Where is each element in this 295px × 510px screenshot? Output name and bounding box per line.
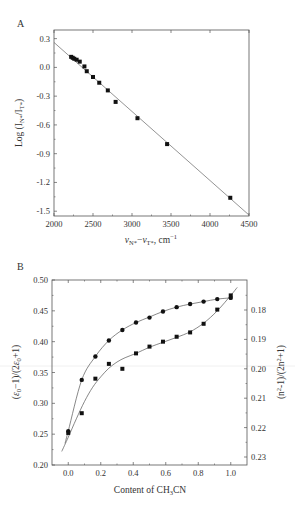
panel-a-frame bbox=[54, 30, 249, 216]
data-point-circle bbox=[147, 315, 151, 319]
x-tick-label: 0.8 bbox=[193, 468, 204, 478]
panel-a: A 2000250030003500400045000.30.0-0.3-0.6… bbox=[14, 18, 258, 246]
data-point-square bbox=[188, 330, 192, 334]
y-tick-label-left: 0.25 bbox=[33, 429, 48, 439]
data-point-circle bbox=[107, 338, 111, 342]
figure: A 2000250030003500400045000.30.0-0.3-0.6… bbox=[0, 0, 295, 510]
panel-b-fit-curves bbox=[62, 287, 238, 451]
panel-b: B 0.00.20.40.60.81.00.200.250.300.350.40… bbox=[0, 261, 295, 496]
panel-a-ticks: 2000250030003500400045000.30.0-0.3-0.6-0… bbox=[37, 30, 258, 229]
data-point-circle bbox=[134, 320, 138, 324]
data-point-circle bbox=[120, 328, 124, 332]
data-point bbox=[85, 69, 89, 73]
data-point bbox=[78, 60, 82, 64]
panel-b-xlabel: Content of CH3CN bbox=[114, 485, 187, 496]
data-point bbox=[228, 196, 232, 200]
x-tick-label: 0.0 bbox=[63, 468, 74, 478]
y-tick-label-left: 0.40 bbox=[33, 337, 48, 347]
panel-a-xlabel: νN*−νT*, cm−1 bbox=[125, 233, 177, 246]
panel-b-ticks: 0.00.20.40.60.81.00.200.250.300.350.400.… bbox=[33, 275, 266, 478]
data-point-circle bbox=[201, 299, 205, 303]
panel-a-points bbox=[69, 55, 232, 200]
data-point-square bbox=[120, 367, 124, 371]
y-tick-label: -0.3 bbox=[37, 91, 50, 101]
x-tick-label: 3500 bbox=[163, 219, 180, 229]
y-tick-label-right: 0.22 bbox=[251, 423, 266, 433]
y-tick-label-right: 0.21 bbox=[251, 393, 266, 403]
y-tick-label: -0.9 bbox=[37, 149, 50, 159]
panel-a-label: A bbox=[17, 18, 25, 29]
x-tick-label: 2500 bbox=[85, 219, 102, 229]
y-tick-label: 0.0 bbox=[39, 62, 50, 72]
x-tick-label: 4000 bbox=[202, 219, 219, 229]
y-tick-label-right: 0.20 bbox=[251, 364, 266, 374]
data-point bbox=[135, 116, 139, 120]
y-tick-label-right: 0.18 bbox=[251, 305, 266, 315]
y-tick-label: -0.6 bbox=[37, 120, 50, 130]
data-point bbox=[114, 100, 118, 104]
data-point bbox=[82, 64, 86, 68]
y-tick-label-left: 0.50 bbox=[33, 275, 48, 285]
y-tick-label-left: 0.20 bbox=[33, 460, 48, 470]
panel-b-points bbox=[66, 293, 233, 435]
fit-curve bbox=[65, 298, 231, 444]
data-point-square bbox=[215, 308, 219, 312]
data-point-circle bbox=[188, 302, 192, 306]
data-point bbox=[106, 88, 110, 92]
data-point bbox=[91, 75, 95, 79]
data-point-circle bbox=[215, 297, 219, 301]
y-tick-label-left: 0.35 bbox=[33, 368, 48, 378]
data-point-square bbox=[80, 411, 84, 415]
data-point bbox=[165, 142, 169, 146]
data-point-square bbox=[229, 293, 233, 297]
y-tick-label-right: 0.23 bbox=[251, 452, 266, 462]
data-point-square bbox=[107, 362, 111, 366]
panel-b-label: B bbox=[17, 261, 24, 272]
x-tick-label: 2000 bbox=[46, 219, 63, 229]
x-tick-label: 1.0 bbox=[225, 468, 236, 478]
y-tick-label-left: 0.30 bbox=[33, 398, 48, 408]
y-tick-label-right: 0.19 bbox=[251, 334, 266, 344]
x-tick-label: 0.4 bbox=[128, 468, 139, 478]
data-point-square bbox=[93, 377, 97, 381]
data-point-square bbox=[161, 340, 165, 344]
panel-a-ylabel: Log (IN*/IT*) bbox=[14, 99, 25, 147]
fit-curve bbox=[62, 287, 238, 451]
data-point-square bbox=[148, 345, 152, 349]
data-point-circle bbox=[93, 354, 97, 358]
y-tick-label: -1.2 bbox=[37, 177, 50, 187]
x-tick-label: 0.6 bbox=[160, 468, 171, 478]
data-point-square bbox=[175, 335, 179, 339]
panel-b-ylabel-right: (n2-1)/(2n2+1) bbox=[275, 345, 287, 399]
y-tick-label: -1.5 bbox=[37, 206, 50, 216]
data-point-circle bbox=[174, 305, 178, 309]
x-tick-label: 0.2 bbox=[95, 468, 106, 478]
x-tick-label: 4500 bbox=[241, 219, 258, 229]
data-point-circle bbox=[80, 378, 84, 382]
data-point-square bbox=[66, 431, 70, 435]
y-tick-label-left: 0.45 bbox=[33, 306, 48, 316]
x-tick-label: 3000 bbox=[124, 219, 141, 229]
panel-b-ylabel-left: (ε0−1)/(2ε0+1) bbox=[11, 345, 22, 399]
data-point-square bbox=[202, 322, 206, 326]
data-point bbox=[97, 81, 101, 85]
data-point-circle bbox=[161, 309, 165, 313]
data-point-square bbox=[134, 351, 138, 355]
y-tick-label: 0.3 bbox=[39, 34, 50, 44]
